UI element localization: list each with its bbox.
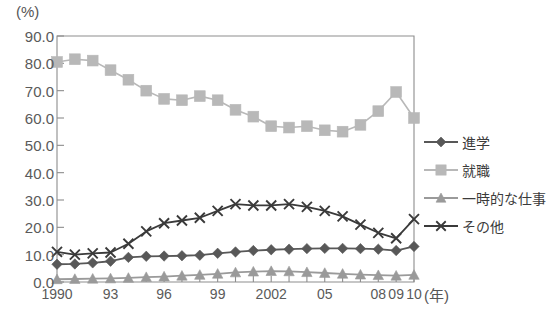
data-point-marker-diamond bbox=[355, 243, 365, 253]
legend-symbol bbox=[424, 161, 458, 179]
data-point-marker-x bbox=[373, 228, 383, 238]
x-tick-label: 05 bbox=[317, 286, 333, 302]
data-point-marker-diamond bbox=[302, 243, 312, 253]
legend-item-1[interactable]: 進学 bbox=[424, 128, 552, 156]
x-tick-label: 93 bbox=[103, 286, 119, 302]
data-point-marker-square bbox=[194, 91, 205, 102]
data-point-marker-diamond bbox=[70, 259, 80, 269]
data-point-marker-diamond bbox=[141, 251, 151, 261]
y-tick-label: 30.0 bbox=[2, 192, 54, 209]
data-point-marker-diamond bbox=[373, 244, 383, 254]
data-point-marker-square bbox=[159, 93, 170, 104]
data-point-marker-square bbox=[391, 87, 402, 98]
series-2 bbox=[52, 54, 420, 137]
x-tick-label: 99 bbox=[210, 286, 226, 302]
data-point-marker-triangle bbox=[436, 193, 446, 202]
x-tick-label: 10 bbox=[406, 286, 422, 302]
legend-symbol bbox=[424, 189, 458, 207]
data-point-marker-x bbox=[391, 233, 401, 243]
data-point-marker-diamond bbox=[123, 252, 133, 262]
data-point-marker-diamond bbox=[248, 245, 258, 255]
chart-legend: 進学就職一時的な仕事その他 bbox=[424, 128, 552, 240]
legend-item-3[interactable]: 一時的な仕事 bbox=[424, 184, 552, 212]
x-tick-label: 08 bbox=[371, 286, 387, 302]
data-point-marker-x bbox=[338, 211, 348, 221]
data-point-marker-square bbox=[69, 54, 80, 65]
y-tick-label: 90.0 bbox=[2, 28, 54, 45]
legend-marker-triangle-icon bbox=[424, 189, 458, 207]
x-axis-unit-label: (年) bbox=[424, 284, 449, 305]
y-tick-label: 70.0 bbox=[2, 82, 54, 99]
y-axis-tick-labels: 0.010.020.030.040.050.060.070.080.090.0 bbox=[0, 0, 54, 330]
data-point-marker-diamond bbox=[105, 256, 115, 266]
legend-item-2[interactable]: 就職 bbox=[424, 156, 552, 184]
x-tick-label: 09 bbox=[388, 286, 404, 302]
data-point-marker-diamond bbox=[436, 137, 446, 147]
data-point-marker-x bbox=[123, 239, 133, 249]
legend-symbol bbox=[424, 133, 458, 151]
data-point-marker-x bbox=[436, 221, 446, 231]
legend-label: 進学 bbox=[462, 132, 490, 152]
data-point-marker-square bbox=[284, 122, 295, 133]
legend-marker-diamond-icon bbox=[424, 133, 458, 151]
legend-label: 一時的な仕事 bbox=[462, 188, 546, 208]
data-point-marker-square bbox=[266, 121, 277, 132]
data-point-marker-diamond bbox=[337, 243, 347, 253]
data-point-marker-square bbox=[230, 104, 241, 115]
data-point-marker-square bbox=[105, 65, 116, 76]
data-point-marker-square bbox=[123, 74, 134, 85]
data-point-marker-diamond bbox=[284, 244, 294, 254]
y-tick-label: 50.0 bbox=[2, 137, 54, 154]
legend-symbol bbox=[424, 217, 458, 235]
data-point-marker-x bbox=[355, 220, 365, 230]
data-point-marker-square bbox=[337, 126, 348, 137]
data-point-marker-square bbox=[302, 121, 313, 132]
data-point-marker-square bbox=[373, 106, 384, 117]
x-tick-label: 1990 bbox=[41, 286, 72, 302]
legend-marker-x-icon bbox=[424, 217, 458, 235]
legend-label: その他 bbox=[462, 216, 504, 236]
data-point-marker-square bbox=[355, 119, 366, 130]
x-tick-label: 96 bbox=[156, 286, 172, 302]
data-point-marker-square bbox=[177, 95, 188, 106]
data-point-marker-x bbox=[213, 206, 223, 216]
data-point-marker-diamond bbox=[88, 258, 98, 268]
legend-marker-square-icon bbox=[424, 161, 458, 179]
data-point-marker-square bbox=[319, 125, 330, 136]
y-tick-label: 20.0 bbox=[2, 219, 54, 236]
y-tick-label: 60.0 bbox=[2, 110, 54, 127]
data-point-marker-diamond bbox=[159, 251, 169, 261]
data-point-marker-diamond bbox=[409, 241, 419, 251]
line-chart: (%) (年) 0.010.020.030.040.050.060.070.08… bbox=[0, 0, 556, 330]
data-point-marker-square bbox=[409, 113, 420, 124]
data-point-marker-diamond bbox=[177, 251, 187, 261]
data-point-marker-diamond bbox=[320, 243, 330, 253]
data-point-marker-square bbox=[436, 165, 446, 175]
data-point-marker-x bbox=[141, 226, 151, 236]
data-point-marker-square bbox=[248, 111, 259, 122]
legend-item-4[interactable]: その他 bbox=[424, 212, 552, 240]
x-tick-label: 2002 bbox=[256, 286, 287, 302]
legend-label: 就職 bbox=[462, 160, 490, 180]
data-point-marker-diamond bbox=[212, 248, 222, 258]
data-point-marker-square bbox=[87, 55, 98, 66]
data-point-marker-diamond bbox=[266, 245, 276, 255]
data-point-marker-square bbox=[141, 85, 152, 96]
y-tick-label: 80.0 bbox=[2, 55, 54, 72]
data-point-marker-diamond bbox=[230, 247, 240, 257]
y-tick-label: 10.0 bbox=[2, 246, 54, 263]
y-tick-label: 40.0 bbox=[2, 164, 54, 181]
data-point-marker-diamond bbox=[195, 250, 205, 260]
data-point-marker-square bbox=[212, 95, 223, 106]
data-point-marker-diamond bbox=[391, 245, 401, 255]
